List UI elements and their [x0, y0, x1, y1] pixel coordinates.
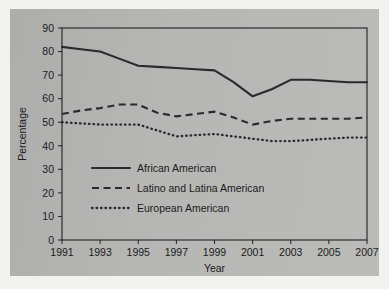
legend-label-0: African American — [137, 162, 217, 174]
y-axis-title: Percentage — [16, 107, 28, 161]
x-tick-label: 1995 — [127, 246, 151, 258]
line-chart: 0102030405060708090199119931995199719992… — [0, 0, 389, 289]
x-tick-label: 2007 — [355, 246, 379, 258]
legend-label-1: Latino and Latina American — [137, 182, 264, 194]
y-tick-label: 50 — [42, 116, 54, 128]
series-line-0 — [62, 47, 367, 96]
y-tick-label: 70 — [42, 69, 54, 81]
series-line-2 — [62, 122, 367, 141]
y-tick-label: 80 — [42, 45, 54, 57]
y-tick-label: 30 — [42, 163, 54, 175]
x-tick-label: 1997 — [165, 246, 189, 258]
x-tick-label: 2003 — [279, 246, 303, 258]
x-tick-label: 1999 — [203, 246, 227, 258]
y-tick-label: 60 — [42, 92, 54, 104]
y-tick-label: 40 — [42, 140, 54, 152]
x-axis-title: Year — [204, 262, 226, 274]
x-tick-label: 2001 — [241, 246, 265, 258]
y-tick-label: 20 — [42, 187, 54, 199]
figure-container: 0102030405060708090199119931995199719992… — [0, 0, 389, 289]
x-tick-label: 2005 — [317, 246, 341, 258]
legend-label-2: European American — [137, 202, 229, 214]
x-tick-label: 1993 — [88, 246, 112, 258]
y-tick-label: 90 — [42, 22, 54, 34]
y-tick-label: 0 — [48, 234, 54, 246]
y-tick-label: 10 — [42, 210, 54, 222]
series-line-1 — [62, 105, 367, 125]
x-tick-label: 1991 — [50, 246, 74, 258]
